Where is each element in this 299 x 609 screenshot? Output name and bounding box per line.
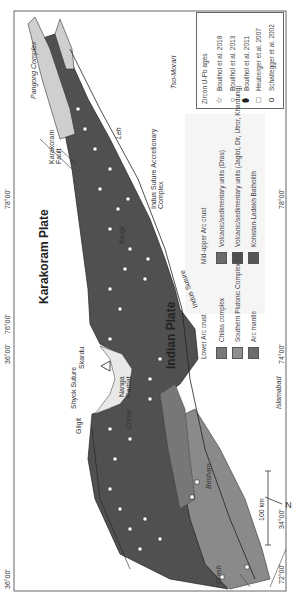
swatch-jaglot	[232, 252, 243, 264]
swatch-chilas	[216, 347, 227, 359]
coord-36-top: 36°00'	[4, 344, 11, 364]
label-skardu: Skardu	[78, 347, 85, 369]
label-kargil: Kargil	[118, 226, 125, 244]
legend-ages-title: Zircon U-Pb ages	[201, 53, 208, 104]
swatch-batholith	[248, 252, 259, 264]
swatch-arc-mantle	[248, 347, 259, 359]
coord-78-bottom: 78°00'	[278, 189, 285, 209]
geologic-map-rotated: Karakoram Plate Indian Plate Shyok Sutur…	[0, 0, 299, 609]
coord-76: 76°00'	[4, 314, 11, 334]
label-islamabad: Islamabad	[275, 377, 282, 409]
label-karakoram-plate: Karakoram Plate	[38, 209, 50, 304]
label-nanga-parbat: Nanga Parbat	[118, 367, 132, 397]
legend-unit-item: Chilas complex	[216, 298, 227, 359]
legend-unit-item: Kohistan-Ladakh Batholith	[248, 171, 259, 264]
map-figure: Karakoram Plate Indian Plate Shyok Sutur…	[0, 0, 299, 609]
north-arrow-icon: N	[285, 501, 292, 510]
label-drosh: Drosh	[215, 565, 222, 584]
star-icon: ☆	[215, 96, 224, 104]
label-indian-plate: Indian Plate	[165, 302, 177, 369]
coord-78-top: 78°00'	[4, 189, 11, 209]
legend-unit-item: Volcanic/sedimentary units (Jaglot, Dir,…	[232, 86, 243, 265]
coord-74: 74°00'	[278, 344, 285, 364]
legend-unit-item: Arc mantle	[248, 311, 259, 359]
label-tso-morari: Tso-Morari	[170, 56, 177, 89]
label-shyok-suture: Shyok Suture	[70, 367, 77, 409]
label-pangong-complex: Pangong Complex	[30, 41, 37, 99]
ellipse-icon: 0	[267, 96, 276, 104]
legend-unit-item: Southern Plutonic Complex	[232, 263, 243, 359]
label-besham: Besham	[205, 463, 212, 489]
legend-age-item: 0Schaltegger et al. 2002	[267, 24, 276, 104]
legend-upper-title: Mid-upper Arc crust	[200, 208, 207, 264]
legend-age-item: ☆Bouilhol et al. 2018	[215, 36, 224, 104]
label-leh: Leh	[115, 127, 122, 139]
legend-lower-title: Lower Arc crust	[200, 314, 207, 359]
label-karakoram-fault: Karakoram Fault	[48, 124, 62, 164]
label-indus-suture-accretionary: Indus Suture Accretionary Complex	[150, 119, 164, 209]
swatch-dras	[216, 252, 227, 264]
label-chilas: Chilas	[125, 410, 132, 429]
coord-34: 34°00'	[278, 509, 285, 529]
coord-72: 72°00'	[278, 564, 285, 584]
legend-unit-item: Volcanic/sedimentary units (Dras)	[216, 150, 227, 264]
coord-36-bottom: 36°00'	[4, 569, 11, 589]
label-gilgit: Gilgit	[75, 418, 82, 434]
square-icon: □	[254, 96, 263, 104]
swatch-southern-plutonic	[232, 347, 243, 359]
scale-bar-label: 100 km	[258, 498, 265, 521]
legend-age-item: □Heuberger et al. 2007	[254, 28, 263, 104]
